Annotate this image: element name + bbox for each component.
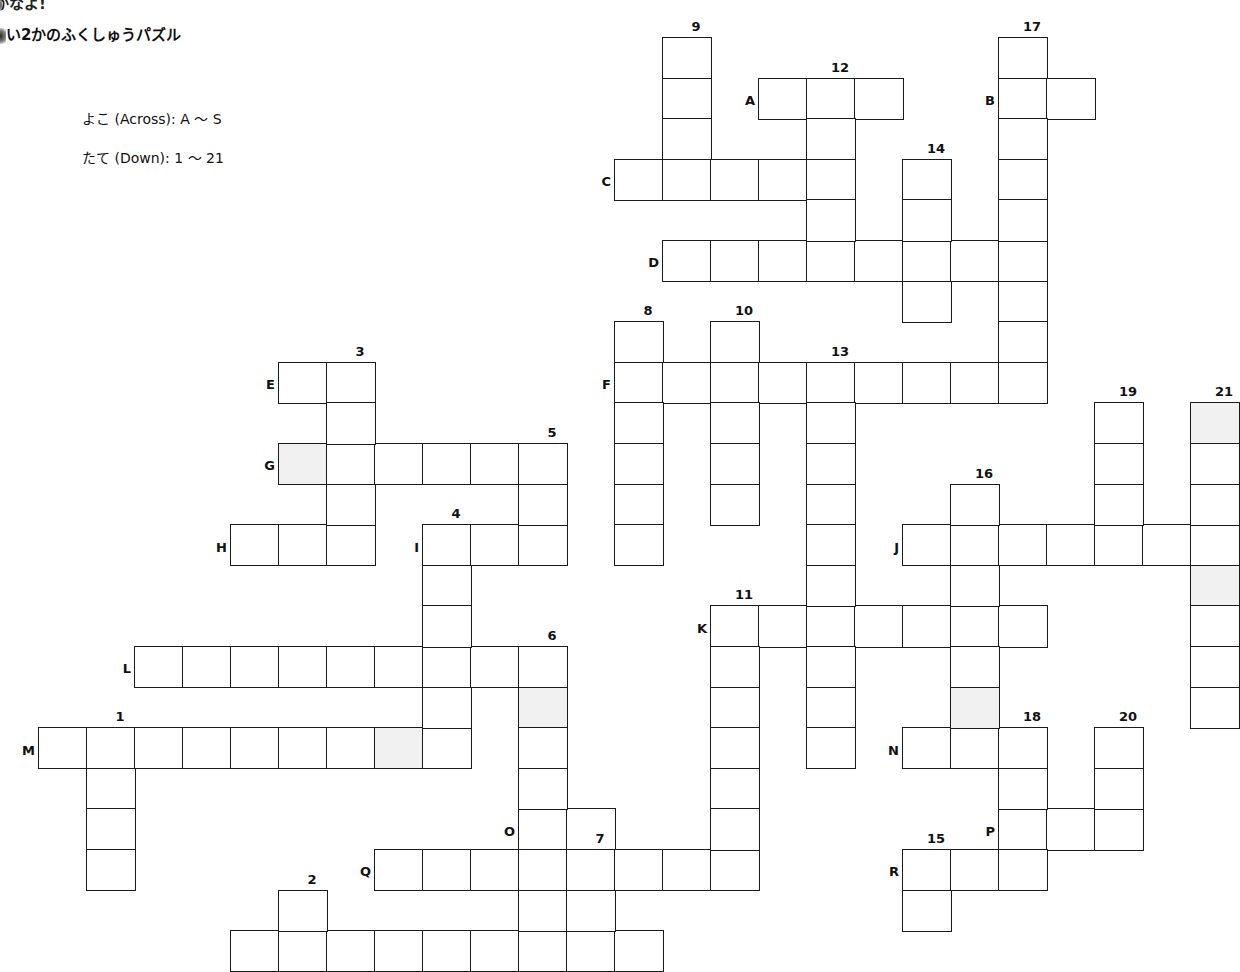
grid-cell[interactable] <box>422 646 472 688</box>
grid-cell[interactable] <box>614 930 664 972</box>
grid-cell[interactable] <box>710 605 760 647</box>
grid-cell[interactable] <box>998 118 1048 160</box>
grid-cell[interactable] <box>662 118 712 160</box>
grid-cell[interactable] <box>710 321 760 363</box>
grid-cell[interactable] <box>566 890 616 932</box>
grid-cell[interactable] <box>326 524 376 566</box>
grid-cell[interactable] <box>374 727 424 769</box>
grid-cell[interactable] <box>806 443 856 485</box>
grid-cell[interactable] <box>806 605 856 647</box>
grid-cell[interactable] <box>710 443 760 485</box>
grid-cell[interactable] <box>998 37 1048 79</box>
grid-cell[interactable] <box>134 727 184 769</box>
grid-cell[interactable] <box>518 484 568 526</box>
grid-cell[interactable] <box>998 240 1048 282</box>
grid-cell[interactable] <box>950 240 1000 282</box>
grid-cell[interactable] <box>758 362 808 404</box>
grid-cell[interactable] <box>806 402 856 444</box>
grid-cell[interactable] <box>902 849 952 891</box>
grid-cell[interactable] <box>758 159 808 201</box>
grid-cell[interactable] <box>1046 78 1096 120</box>
grid-cell[interactable] <box>1190 605 1240 647</box>
grid-cell[interactable] <box>518 890 568 932</box>
grid-cell[interactable] <box>374 646 424 688</box>
grid-cell[interactable] <box>662 240 712 282</box>
grid-cell[interactable] <box>710 484 760 526</box>
grid-cell[interactable] <box>614 524 664 566</box>
grid-cell[interactable] <box>278 443 328 485</box>
grid-cell[interactable] <box>614 849 664 891</box>
grid-cell[interactable] <box>278 930 328 972</box>
grid-cell[interactable] <box>278 524 328 566</box>
grid-cell[interactable] <box>470 524 520 566</box>
grid-cell[interactable] <box>710 402 760 444</box>
grid-cell[interactable] <box>902 605 952 647</box>
grid-cell[interactable] <box>1046 808 1096 850</box>
grid-cell[interactable] <box>854 78 904 120</box>
grid-cell[interactable] <box>710 646 760 688</box>
grid-cell[interactable] <box>662 37 712 79</box>
grid-cell[interactable] <box>422 565 472 607</box>
grid-cell[interactable] <box>758 78 808 120</box>
grid-cell[interactable] <box>902 240 952 282</box>
grid-cell[interactable] <box>1094 808 1144 850</box>
grid-cell[interactable] <box>758 605 808 647</box>
grid-cell[interactable] <box>710 159 760 201</box>
grid-cell[interactable] <box>710 687 760 729</box>
grid-cell[interactable] <box>518 687 568 729</box>
grid-cell[interactable] <box>1094 484 1144 526</box>
grid-cell[interactable] <box>230 930 280 972</box>
grid-cell[interactable] <box>1190 484 1240 526</box>
grid-cell[interactable] <box>710 768 760 810</box>
grid-cell[interactable] <box>38 727 88 769</box>
grid-cell[interactable] <box>950 605 1000 647</box>
grid-cell[interactable] <box>1094 402 1144 444</box>
grid-cell[interactable] <box>1094 524 1144 566</box>
grid-cell[interactable] <box>998 524 1048 566</box>
grid-cell[interactable] <box>998 281 1048 323</box>
grid-cell[interactable] <box>998 78 1048 120</box>
grid-cell[interactable] <box>902 281 952 323</box>
grid-cell[interactable] <box>422 727 472 769</box>
grid-cell[interactable] <box>806 524 856 566</box>
grid-cell[interactable] <box>470 646 520 688</box>
grid-cell[interactable] <box>230 646 280 688</box>
grid-cell[interactable] <box>518 443 568 485</box>
grid-cell[interactable] <box>518 524 568 566</box>
grid-cell[interactable] <box>614 321 664 363</box>
grid-cell[interactable] <box>278 362 328 404</box>
grid-cell[interactable] <box>806 78 856 120</box>
grid-cell[interactable] <box>806 484 856 526</box>
grid-cell[interactable] <box>1190 646 1240 688</box>
grid-cell[interactable] <box>806 240 856 282</box>
grid-cell[interactable] <box>1190 524 1240 566</box>
grid-cell[interactable] <box>1190 443 1240 485</box>
grid-cell[interactable] <box>1190 565 1240 607</box>
grid-cell[interactable] <box>518 646 568 688</box>
grid-cell[interactable] <box>422 687 472 729</box>
grid-cell[interactable] <box>950 727 1000 769</box>
grid-cell[interactable] <box>998 727 1048 769</box>
grid-cell[interactable] <box>998 362 1048 404</box>
grid-cell[interactable] <box>710 362 760 404</box>
grid-cell[interactable] <box>86 727 136 769</box>
grid-cell[interactable] <box>998 159 1048 201</box>
grid-cell[interactable] <box>1094 727 1144 769</box>
grid-cell[interactable] <box>806 362 856 404</box>
grid-cell[interactable] <box>278 727 328 769</box>
grid-cell[interactable] <box>86 849 136 891</box>
grid-cell[interactable] <box>230 727 280 769</box>
grid-cell[interactable] <box>998 605 1048 647</box>
grid-cell[interactable] <box>1142 524 1192 566</box>
grid-cell[interactable] <box>326 484 376 526</box>
grid-cell[interactable] <box>806 727 856 769</box>
grid-cell[interactable] <box>950 484 1000 526</box>
grid-cell[interactable] <box>806 199 856 241</box>
grid-cell[interactable] <box>86 808 136 850</box>
grid-cell[interactable] <box>950 646 1000 688</box>
grid-cell[interactable] <box>662 362 712 404</box>
grid-cell[interactable] <box>518 930 568 972</box>
grid-cell[interactable] <box>806 646 856 688</box>
grid-cell[interactable] <box>422 930 472 972</box>
grid-cell[interactable] <box>326 727 376 769</box>
